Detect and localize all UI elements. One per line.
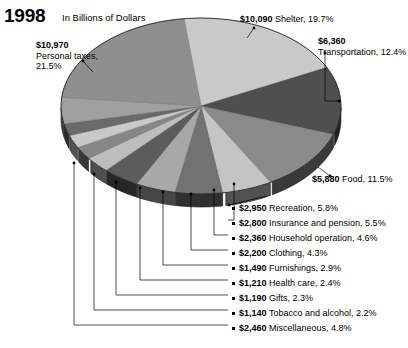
bullet-icon (232, 282, 235, 285)
list-item-amount: $1,140 (239, 308, 267, 318)
list-item-amount: $2,360 (239, 233, 267, 243)
bullet-icon (232, 252, 235, 255)
list-item: $1,140 Tobacco and alcohol, 2.2% (232, 308, 376, 318)
callout-amount: $6,360 (318, 36, 346, 46)
callout-amount: $10,090 (240, 14, 273, 24)
callout-transportation: $6,360 Transportation, 12.4% (318, 36, 406, 57)
list-item: $1,490 Furnishings, 2.9% (232, 263, 341, 273)
callout-desc: Personal taxes, (36, 51, 98, 61)
callout-amount: $5,880 (312, 174, 340, 184)
list-item-desc: Recreation, 5.8% (269, 203, 338, 213)
list-item-amount: $1,210 (239, 278, 267, 288)
list-item-amount: $2,950 (239, 203, 267, 213)
leader-endpoint (190, 193, 193, 196)
leader-endpoint (93, 173, 96, 176)
bullet-icon (232, 267, 235, 270)
callout-percent: 21.5% (36, 61, 62, 71)
leader-endpoint (162, 191, 165, 194)
callout-desc: Shelter, 19.7% (275, 14, 334, 24)
list-item-desc: Miscellaneous, 4.8% (269, 323, 352, 333)
leader-endpoint (73, 162, 76, 165)
leader-endpoint (253, 27, 256, 30)
leader-endpoint (228, 204, 231, 207)
bullet-icon (232, 207, 235, 210)
list-item-amount: $1,190 (239, 293, 267, 303)
list-item-desc: Tobacco and alcohol, 2.2% (269, 308, 377, 318)
bullet-icon (232, 297, 235, 300)
chart-canvas: 1998 In Billions of Dollars $10,970 Pers… (0, 0, 408, 348)
leader-endpoint (338, 100, 341, 103)
callout-food: $5,880 Food, 11.5% (312, 174, 392, 185)
list-item: $2,800 Insurance and pension, 5.5% (232, 218, 386, 228)
list-item-amount: $2,800 (239, 218, 267, 228)
list-item-desc: Health care, 2.4% (269, 278, 341, 288)
leader-endpoint (233, 183, 236, 186)
bullet-icon (232, 312, 235, 315)
leader-endpoint (213, 189, 216, 192)
callout-shelter: $10,090 Shelter, 19.7% (240, 14, 334, 25)
list-item: $2,460 Miscellaneous, 4.8% (232, 323, 352, 333)
callout-desc: Food, 11.5% (342, 174, 392, 184)
list-item-desc: Insurance and pension, 5.5% (269, 218, 386, 228)
list-item-amount: $2,460 (239, 323, 267, 333)
bullet-icon (232, 237, 235, 240)
callout-amount: $10,970 (36, 40, 69, 50)
list-item-desc: Furnishings, 2.9% (269, 263, 341, 273)
list-item-amount: $2,200 (239, 248, 267, 258)
pie-slice-side (175, 193, 222, 208)
list-item: $1,210 Health care, 2.4% (232, 278, 341, 288)
bullet-icon (232, 222, 235, 225)
bullet-icon (232, 327, 235, 330)
callout-desc: Transportation, 12.4% (318, 47, 406, 57)
list-item-desc: Gifts, 2.3% (269, 293, 313, 303)
leader-endpoint (115, 181, 118, 184)
list-item: $2,950 Recreation, 5.8% (232, 203, 338, 213)
list-item-amount: $1,490 (239, 263, 267, 273)
list-item-desc: Household operation, 4.6% (269, 233, 378, 243)
list-item-desc: Clothing, 4.3% (269, 248, 328, 258)
leader-endpoint (139, 187, 142, 190)
list-item: $2,360 Household operation, 4.6% (232, 233, 378, 243)
list-item: $1,190 Gifts, 2.3% (232, 293, 313, 303)
callout-personal-taxes: $10,970 Personal taxes, 21.5% (36, 40, 98, 72)
list-item: $2,200 Clothing, 4.3% (232, 248, 328, 258)
